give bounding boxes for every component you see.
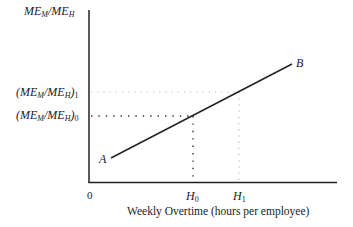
y1-tick-label: (MEM/MEH)1 — [16, 85, 78, 100]
h0-tick-label: H0 — [186, 189, 199, 204]
origin-label: 0 — [87, 189, 93, 201]
x-axis-label: Weekly Overtime (hours per employee) — [127, 205, 309, 217]
point-b-label: B — [296, 56, 303, 71]
y-axis-label: MEM/MEH — [24, 4, 74, 19]
y0-tick-label: (MEM/MEH)0 — [16, 108, 78, 123]
h1-tick-label: H1 — [233, 189, 246, 204]
point-a-label: A — [99, 152, 106, 167]
line-ab — [111, 64, 292, 158]
